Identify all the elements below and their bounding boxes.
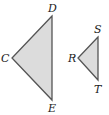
triangle-cde xyxy=(12,16,52,100)
vertex-label-t: T xyxy=(94,83,103,96)
vertex-label-r: R xyxy=(67,52,76,65)
vertex-label-s: S xyxy=(94,23,102,36)
vertex-label-d: D xyxy=(47,2,57,15)
vertex-label-c: C xyxy=(1,52,10,65)
similar-triangles-diagram: D C E S R T xyxy=(0,0,109,115)
triangle-rst xyxy=(78,37,98,80)
vertex-label-e: E xyxy=(47,102,56,115)
